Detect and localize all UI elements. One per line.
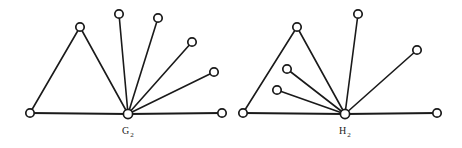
graph-edge-g-hub-to-g-base-right	[128, 113, 222, 114]
graph-vertex-h-fan-top	[354, 10, 362, 18]
graph-edge-g-hub-to-g-fan-2	[128, 18, 158, 114]
graph-vertex-g-fan-3	[188, 38, 196, 46]
graph-edge-g-base-left-to-g-hub	[30, 113, 128, 114]
graph-label-h2: H2	[339, 125, 351, 139]
graph-vertex-g-hub	[123, 109, 132, 118]
graph-edge-h-hub-to-h-fan-top	[345, 14, 358, 114]
graph-edge-h-hub-to-h-base-right	[345, 113, 437, 114]
graph-label-base: G	[122, 125, 130, 136]
graph-edge-g-hub-to-g-fan-3	[128, 42, 192, 114]
graph-vertex-g-base-right	[218, 109, 226, 117]
graph-diagram: G2H2	[0, 0, 462, 148]
graph-vertex-h-base-left	[239, 109, 247, 117]
graph-edge-h-hub-to-h-pendant-2	[277, 90, 345, 114]
node-layer	[26, 10, 226, 119]
graph-vertex-h-pendant-1	[283, 65, 291, 73]
graph-h2: H2	[239, 10, 441, 139]
graph-vertex-h-fan-right	[413, 46, 421, 54]
graph-vertex-h-pendant-2	[273, 86, 281, 94]
graph-vertex-h-base-right	[433, 109, 441, 117]
figure-container: G2H2	[0, 0, 462, 148]
edge-layer	[30, 14, 222, 114]
graph-edge-h-base-left-to-h-hub	[243, 113, 345, 114]
graph-label-base: H	[339, 125, 347, 136]
graph-label-g2: G2	[122, 125, 134, 139]
graph-vertex-g-apex	[76, 23, 84, 31]
graph-vertex-h-apex	[293, 23, 301, 31]
graph-edge-h-hub-to-h-pendant-1	[287, 69, 345, 114]
graph-vertex-g-fan-2	[154, 14, 162, 22]
graph-vertex-h-hub	[340, 109, 349, 118]
graph-vertex-g-fan-4	[210, 68, 218, 76]
graph-edge-h-apex-to-h-hub	[297, 27, 345, 114]
node-layer	[239, 10, 441, 119]
graph-edge-g-hub-to-g-fan-4	[128, 72, 214, 114]
graph-vertex-g-fan-1	[115, 10, 123, 18]
graph-edge-g-base-left-to-g-apex	[30, 27, 80, 113]
edge-layer	[243, 14, 437, 114]
graph-label-subscript: 2	[347, 131, 351, 139]
graph-vertex-g-base-left	[26, 109, 34, 117]
graph-label-subscript: 2	[130, 131, 134, 139]
graph-edge-h-hub-to-h-fan-right	[345, 50, 417, 114]
graph-g2: G2	[26, 10, 226, 139]
